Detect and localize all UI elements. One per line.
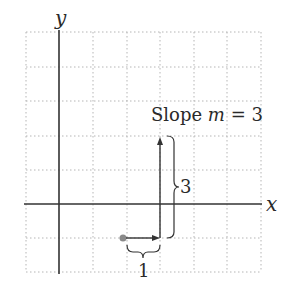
slope-title-suffix: = 3 <box>225 104 263 125</box>
slope-title: Slope m = 3 <box>151 104 263 125</box>
rise-arrow <box>157 137 163 238</box>
run-brace <box>127 245 160 258</box>
y-axis-label: y <box>54 6 67 30</box>
slope-var: m <box>208 104 225 125</box>
run-label: 1 <box>138 260 149 281</box>
run-arrow <box>126 235 160 241</box>
rise-label: 3 <box>180 176 191 197</box>
slope-title-prefix: Slope <box>151 104 208 125</box>
start-point <box>120 235 127 242</box>
slope-diagram: y x Slope m = 3 3 1 <box>0 0 297 307</box>
grid <box>26 32 261 272</box>
rise-brace <box>167 136 179 238</box>
x-axis-label: x <box>266 192 277 216</box>
